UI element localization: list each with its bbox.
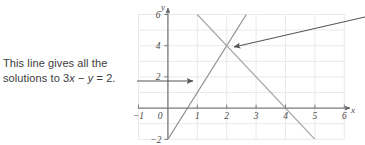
xlabel-0: 0 <box>158 111 163 121</box>
y-axis-label: y <box>160 2 165 12</box>
xlabel-6: 6 <box>342 111 347 121</box>
ylabel-4: 4 <box>156 41 161 51</box>
xlabel-1: 1 <box>195 111 200 121</box>
coordinate-plane-figure: −1 0 1 2 3 4 5 6 6 4 2 −2 x y <box>0 0 365 144</box>
figure-page: This line gives all the solutions to 3x … <box>0 0 365 144</box>
x-axis-label: x <box>350 105 355 115</box>
ylabel-6: 6 <box>156 10 161 20</box>
xlabel-neg1: −1 <box>133 111 144 121</box>
ylabel-neg2: −2 <box>150 135 161 145</box>
xlabel-3: 3 <box>253 111 259 121</box>
xlabel-4: 4 <box>283 111 288 121</box>
xlabel-5: 5 <box>313 111 318 121</box>
xlabel-2: 2 <box>224 111 229 121</box>
